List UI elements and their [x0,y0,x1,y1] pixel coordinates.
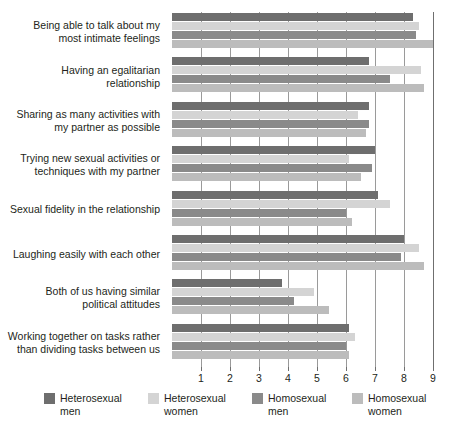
category-label: Trying new sexual activities ortechnique… [0,152,160,178]
category-label-line: Laughing easily with each other [0,248,160,261]
bar-group [172,190,433,234]
bar-group [172,56,433,100]
bar-group [172,234,433,278]
legend-swatch-icon [148,393,159,404]
legend-item[interactable]: Homosexual women [352,392,426,417]
bar [172,84,424,92]
category-label: Sharing as many activities withmy partne… [0,108,160,134]
x-tick-label-7: 7 [365,372,385,384]
x-tick-label-3: 3 [249,372,269,384]
legend-item[interactable]: Homosexual men [252,392,326,417]
category-label-line: Sharing as many activities with [0,108,160,121]
category-label: Working together on tasks ratherthan div… [0,330,160,356]
category-label-line: relationship [0,77,160,90]
category-label-line: Working together on tasks rather [0,330,160,343]
bar [172,164,372,172]
category-axis-labels: Being able to talk about mymost intimate… [0,12,166,367]
x-tick-2 [230,367,231,371]
x-tick-9 [433,367,434,371]
bar [172,173,361,181]
x-tick-label-9: 9 [423,372,443,384]
bar [172,351,349,359]
x-tick-label-1: 1 [191,372,211,384]
bar [172,129,366,137]
legend-label: Homosexual men [268,392,326,417]
bar [172,191,378,199]
bar [172,66,421,74]
x-tick-label-8: 8 [394,372,414,384]
legend-swatch-icon [252,393,263,404]
category-label-line: Both of us having similar [0,285,160,298]
bar [172,218,352,226]
legend-label: Heterosexual men [60,392,122,417]
bar-rows [172,12,433,367]
category-label: Having an egalitarianrelationship [0,64,160,90]
category-label-line: Trying new sexual activities or [0,152,160,165]
bar-group [172,12,433,56]
x-tick-6 [346,367,347,371]
legend-item[interactable]: Heterosexual men [44,392,122,417]
bar [172,297,294,305]
bar [172,102,369,110]
bar [172,306,329,314]
bar [172,120,369,128]
x-tick-label-6: 6 [336,372,356,384]
category-label-line: most intimate feelings [0,32,160,45]
bar [172,22,419,30]
bar [172,342,346,350]
x-tick-8 [404,367,405,371]
bar [172,288,314,296]
x-tick-7 [375,367,376,371]
bar-group [172,323,433,367]
grouped-bar-chart: Being able to talk about mymost intimate… [0,0,469,437]
category-label-line: political attitudes [0,298,160,311]
x-axis: 123456789 [172,367,433,389]
bar-group [172,101,433,145]
bar [172,146,375,154]
bar [172,155,349,163]
category-label-line: Having an egalitarian [0,64,160,77]
x-tick-1 [201,367,202,371]
bar [172,200,390,208]
category-label: Sexual fidelity in the relationship [0,203,160,216]
x-tick-label-4: 4 [278,372,298,384]
category-label-line: Being able to talk about my [0,19,160,32]
bar [172,279,282,287]
bar-group [172,145,433,189]
bar [172,244,419,252]
bar [172,40,433,48]
legend-label: Homosexual women [368,392,426,417]
chart-legend: Heterosexual menHeterosexual womenHomose… [44,392,464,426]
plot-area [172,12,433,367]
category-label: Laughing easily with each other [0,248,160,261]
x-tick-3 [259,367,260,371]
bar [172,333,355,341]
bar [172,209,346,217]
category-label-line: than dividing tasks between us [0,343,160,356]
bar-group [172,278,433,322]
bar [172,253,401,261]
category-label-line: my partner as possible [0,121,160,134]
legend-label: Heterosexual women [164,392,226,417]
x-tick-4 [288,367,289,371]
bar [172,111,358,119]
x-tick-label-2: 2 [220,372,240,384]
bar [172,235,404,243]
bar [172,262,424,270]
bar [172,13,413,21]
legend-item[interactable]: Heterosexual women [148,392,226,417]
bar [172,324,349,332]
category-label-line: techniques with my partner [0,165,160,178]
x-tick-5 [317,367,318,371]
legend-swatch-icon [352,393,363,404]
bar [172,57,369,65]
gridline-9 [433,12,434,367]
category-label: Both of us having similarpolitical attit… [0,285,160,311]
bar [172,31,416,39]
legend-swatch-icon [44,393,55,404]
x-tick-label-5: 5 [307,372,327,384]
category-label-line: Sexual fidelity in the relationship [0,203,160,216]
bar [172,75,390,83]
category-label: Being able to talk about mymost intimate… [0,19,160,45]
